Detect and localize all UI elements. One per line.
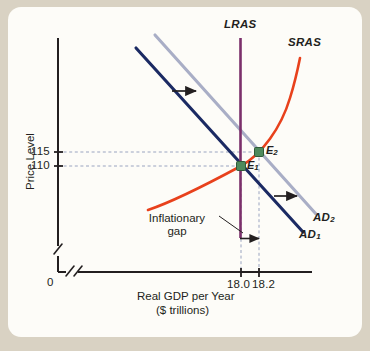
x-tick-label-182: 18.2 [252,278,275,290]
inflationary-gap-line1: Inflationary [149,212,205,224]
curve-label-ad1-sub: 1 [316,232,321,241]
point-label-e1: E1 [247,159,259,172]
curve-SRAS [148,58,300,210]
x-break-1 [66,266,74,276]
curve-label-ad2-text: AD [313,211,330,223]
inflationary-gap-line2: gap [167,225,186,237]
origin-label: 0 [47,276,54,288]
curve-label-ad2-sub: 2 [330,215,335,224]
marker-E1 [237,162,246,171]
point-label-e2-sub: 2 [273,148,277,157]
point-label-e1-sub: 1 [254,163,258,172]
curve-AD2 [155,35,316,214]
curve-label-ad1: AD1 [299,228,321,241]
y-axis-title: Price Level [24,133,36,190]
curve-label-lras: LRAS [224,18,257,30]
point-label-e2: E2 [266,144,278,157]
inflationary-gap-annotation: Inflationary gap [136,212,218,238]
x-axis-title-line1: Real GDP per Year [137,290,235,302]
curve-label-ad1-text: AD [299,228,316,240]
x-tick-label-180: 18.0 [227,278,250,290]
marker-E2 [255,148,264,157]
figure-root: LRAS SRAS AD1 AD2 E1 E2 115 110 18.0 18.… [0,0,370,351]
curve-label-ad2: AD2 [313,211,335,224]
x-axis-title-line2: ($ trillions) [156,304,209,316]
curve-label-sras: SRAS [288,36,321,48]
